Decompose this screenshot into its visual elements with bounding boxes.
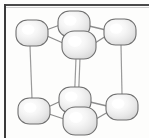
bond-vert-left	[30, 46, 32, 99]
crystal-lattice-diagram	[0, 0, 149, 138]
atom-bottom-front	[63, 107, 97, 135]
atom-bottom-right-highlight	[112, 98, 125, 108]
atom-top-rear-center-highlight	[64, 15, 77, 25]
atom-top-rear-left	[16, 20, 48, 46]
bond-bottom-rear-to-right	[90, 102, 107, 106]
atom-top-front-highlight	[68, 36, 82, 47]
atom-bottom-left-highlight	[24, 102, 37, 112]
atoms-layer	[16, 11, 138, 135]
bond-vert-right	[121, 45, 122, 94]
atom-top-rear-right-highlight	[110, 23, 123, 33]
bond-top-left-to-front	[47, 36, 63, 43]
atom-top-front	[62, 31, 96, 59]
bond-top-rear-to-right	[89, 26, 106, 30]
atom-bottom-front-highlight	[69, 112, 83, 123]
bond-bottom-left-to-front	[49, 114, 64, 119]
atom-top-rear-left-highlight	[22, 24, 35, 34]
atom-bottom-left	[18, 98, 50, 124]
lattice-figure	[0, 0, 149, 138]
atom-top-rear-right	[104, 19, 136, 45]
atom-bottom-rear-highlight	[65, 91, 78, 101]
atom-bottom-right	[106, 94, 138, 120]
